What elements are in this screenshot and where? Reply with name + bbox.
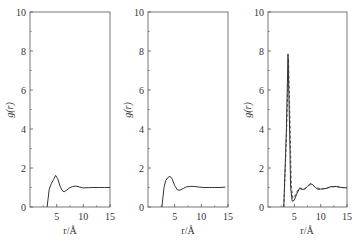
y-tick-label: 8 <box>21 46 26 57</box>
x-tick-label: 15 <box>105 211 115 222</box>
y-axis-label: g(r) <box>242 102 254 118</box>
x-tick-label: 5 <box>292 211 297 222</box>
y-tick-label: 6 <box>21 85 26 96</box>
y-tick-label: 8 <box>139 46 144 57</box>
y-tick-label: 2 <box>21 163 26 174</box>
y-tick-label: 10 <box>16 7 26 18</box>
data-series-line <box>284 59 347 207</box>
y-tick-label: 10 <box>134 7 144 18</box>
y-tick-label: 2 <box>259 163 264 174</box>
y-tick-label: 0 <box>139 202 144 213</box>
x-tick-label: 5 <box>172 211 177 222</box>
x-tick-label: 15 <box>223 211 233 222</box>
y-axis-label: g(r) <box>122 102 134 118</box>
panel-1: g(r) r/Å 024681051015 <box>4 7 115 237</box>
plot-frame <box>148 12 228 207</box>
y-tick-label: 0 <box>259 202 264 213</box>
data-series-line <box>47 175 110 207</box>
y-tick-label: 6 <box>259 85 264 96</box>
y-tick-label: 6 <box>139 85 144 96</box>
y-tick-label: 8 <box>259 46 264 57</box>
y-tick-label: 4 <box>21 124 26 135</box>
y-tick-label: 10 <box>254 7 264 18</box>
panel-3: g(r) r/Å 024681051015 <box>242 7 352 237</box>
y-tick-label: 4 <box>139 124 144 135</box>
x-tick-label: 15 <box>342 211 352 222</box>
x-tick-label: 5 <box>54 211 59 222</box>
data-series-line <box>284 54 347 207</box>
y-tick-label: 2 <box>139 163 144 174</box>
panel-2: g(r) r/Å 024681051015 <box>122 7 233 237</box>
plot-frame <box>30 12 110 207</box>
y-axis-label: g(r) <box>4 102 16 118</box>
y-tick-label: 0 <box>21 202 26 213</box>
figure: g(r) r/Å 024681051015 g(r) r/Å 024681051… <box>0 0 356 240</box>
y-tick-label: 4 <box>259 124 264 135</box>
x-axis-label: r/Å <box>63 225 77 236</box>
x-axis-label: r/Å <box>300 225 314 236</box>
x-axis-label: r/Å <box>181 225 195 236</box>
plot-frame <box>268 12 347 207</box>
data-series-line <box>162 176 225 207</box>
x-tick-label: 10 <box>196 211 206 222</box>
x-tick-label: 10 <box>316 211 326 222</box>
x-tick-label: 10 <box>78 211 88 222</box>
